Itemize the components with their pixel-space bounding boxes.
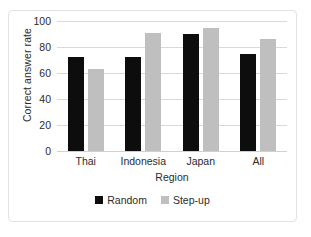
plot-area: 020406080100: [57, 21, 287, 151]
chart-legend: RandomStep-up: [9, 194, 296, 206]
y-axis-tick-label: 60: [39, 67, 51, 79]
y-axis-tick-label: 80: [39, 41, 51, 53]
bar: [145, 33, 161, 151]
x-axis-title: Region: [57, 171, 287, 183]
bar: [203, 28, 219, 152]
bar-group: [172, 21, 230, 151]
y-axis-title: Correct answer rate: [21, 13, 33, 137]
legend-label: Step-up: [173, 194, 210, 206]
x-axis-tick-label: All: [230, 155, 288, 167]
bar-chart-figure: Correct answer rate 020406080100 ThaiInd…: [8, 10, 297, 222]
bar-groups: [57, 21, 287, 151]
y-axis-tick-label: 20: [39, 119, 51, 131]
legend-label: Random: [107, 194, 147, 206]
bar-group: [57, 21, 115, 151]
bar-group: [230, 21, 288, 151]
legend-swatch-icon: [95, 196, 103, 204]
bar: [183, 34, 199, 151]
bar: [260, 39, 276, 151]
x-axis-tick-labels: ThaiIndonesiaJapanAll: [57, 155, 287, 167]
x-axis-tick-label: Thai: [57, 155, 115, 167]
legend-item: Random: [95, 194, 147, 206]
bar: [240, 54, 256, 152]
x-axis-tick-label: Japan: [172, 155, 230, 167]
bar: [88, 69, 104, 151]
y-axis-tick-label: 0: [45, 145, 51, 157]
gridline: 0: [57, 151, 287, 152]
y-axis-tick-label: 40: [39, 93, 51, 105]
legend-swatch-icon: [161, 196, 169, 204]
bar: [125, 57, 141, 151]
x-axis-tick-label: Indonesia: [115, 155, 173, 167]
legend-item: Step-up: [161, 194, 210, 206]
bar-group: [115, 21, 173, 151]
bar: [68, 57, 84, 151]
y-axis-tick-label: 100: [33, 15, 51, 27]
